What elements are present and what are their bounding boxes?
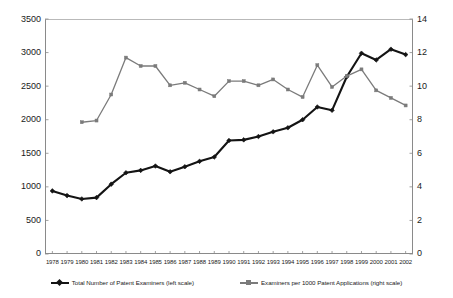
legend-label: Total Number of Patent Examiners (left s…	[72, 279, 194, 287]
legend-item-examiners-per-1000: Examiners per 1000 Patent Applications (…	[240, 279, 402, 287]
x-axis-tick-label: 1995	[296, 258, 309, 266]
x-axis-tick-label: 1982	[105, 258, 118, 266]
x-axis-tick-label: 1978	[46, 258, 59, 266]
x-axis-tick-label: 1980	[75, 258, 88, 266]
x-axis-tick-label: 1987	[178, 258, 191, 266]
y-axis-left-tick: 3500	[1, 15, 41, 24]
y-axis-right-tick: 4	[417, 182, 447, 191]
chart-container: 3500 3000 2500 2000 1500 1000 500 0 14 1…	[0, 0, 453, 298]
y-axis-left-tick: 2000	[1, 115, 41, 124]
plot-area	[45, 19, 413, 254]
y-axis-left-tick: 1000	[1, 182, 41, 191]
x-axis-tick-label: 1991	[237, 258, 250, 266]
x-axis-tick-label: 1993	[267, 258, 280, 266]
legend-marker-icon	[51, 279, 69, 287]
legend-label: Examiners per 1000 Patent Applications (…	[261, 279, 402, 287]
y-axis-left-tick: 500	[1, 216, 41, 225]
x-axis-tick-label: 1984	[134, 258, 147, 266]
y-axis-right-tick: 6	[417, 149, 447, 158]
x-axis-tick-label: 1994	[281, 258, 294, 266]
y-axis-right-tick: 12	[417, 48, 447, 57]
x-axis-tick-label: 1985	[149, 258, 162, 266]
x-axis-tick-label: 1981	[90, 258, 103, 266]
y-axis-left-tick: 1500	[1, 149, 41, 158]
x-axis-tick-label: 1979	[61, 258, 74, 266]
y-axis-right: 14 12 10 8 6 4 2 0	[417, 0, 453, 298]
x-axis-tick-label: 1989	[208, 258, 221, 266]
y-axis-right-tick: 0	[417, 249, 447, 258]
x-axis-tick-label: 1998	[340, 258, 353, 266]
x-axis-tick-label: 1992	[252, 258, 265, 266]
x-axis-tick-label: 1999	[355, 258, 368, 266]
y-axis-left-tick: 2500	[1, 82, 41, 91]
x-axis-tick-label: 2001	[384, 258, 397, 266]
x-axis-tick-label: 2000	[370, 258, 383, 266]
x-axis-tick-label: 1986	[164, 258, 177, 266]
y-axis-right-tick: 14	[417, 15, 447, 24]
x-axis-tick-label: 1988	[193, 258, 206, 266]
y-axis-right-tick: 10	[417, 82, 447, 91]
chart-legend: Total Number of Patent Examiners (left s…	[0, 276, 453, 290]
legend-marker-icon	[240, 279, 258, 287]
x-axis-year-labels: 1978197919801981198219831984198519861987…	[45, 258, 413, 270]
legend-item-total-examiners: Total Number of Patent Examiners (left s…	[51, 279, 194, 287]
x-axis-tick-label: 1996	[311, 258, 324, 266]
x-axis-tick-label: 2002	[399, 258, 412, 266]
y-axis-left-tick: 3000	[1, 48, 41, 57]
x-axis-tick-label: 1997	[326, 258, 339, 266]
y-axis-right-tick: 8	[417, 115, 447, 124]
x-axis-tick-label: 1990	[223, 258, 236, 266]
x-axis-tick-label: 1983	[119, 258, 132, 266]
y-axis-left-tick: 0	[1, 249, 41, 258]
y-axis-left: 3500 3000 2500 2000 1500 1000 500 0	[0, 0, 41, 298]
y-axis-right-tick: 2	[417, 216, 447, 225]
